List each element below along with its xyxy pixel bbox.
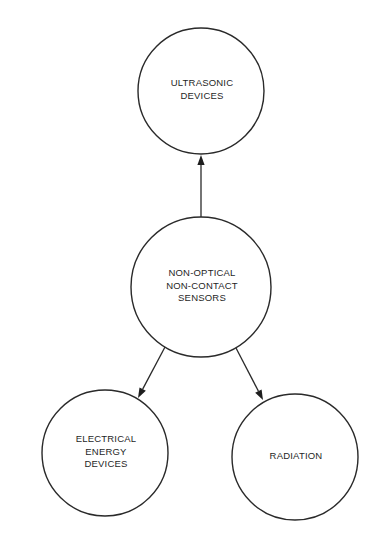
node-electrical-energy: ELECTRICALENERGYDEVICES: [42, 390, 168, 516]
nodes: ULTRASONICDEVICESNON-OPTICALNON-CONTACTS…: [42, 28, 358, 520]
edge-line: [143, 347, 165, 389]
node-label: DEVICES: [84, 458, 127, 469]
node-label: NON-OPTICAL: [168, 267, 235, 278]
node-label: ENERGY: [85, 446, 127, 457]
edge-center-to-bottom_right: [236, 348, 263, 400]
sensor-classification-diagram: ULTRASONICDEVICESNON-OPTICALNON-CONTACTS…: [0, 0, 374, 543]
edge-center-to-bottom_left: [138, 347, 165, 398]
node-radiation: RADIATION: [232, 394, 358, 520]
node-label: SENSORS: [178, 292, 226, 303]
arrowhead-icon: [255, 389, 263, 400]
node-label: ULTRASONIC: [171, 77, 234, 88]
edge-line: [236, 348, 258, 391]
node-ultrasonic: ULTRASONICDEVICES: [138, 28, 264, 154]
arrowhead-icon: [138, 387, 146, 398]
arrowhead-icon: [197, 155, 204, 165]
node-label: ELECTRICAL: [76, 433, 137, 444]
node-label: RADIATION: [270, 450, 323, 461]
edge-center-to-top: [197, 155, 204, 217]
node-label: DEVICES: [180, 90, 223, 101]
node-label: NON-CONTACT: [166, 280, 238, 291]
node-non-optical-non-contact-sensors: NON-OPTICALNON-CONTACTSENSORS: [131, 217, 271, 357]
